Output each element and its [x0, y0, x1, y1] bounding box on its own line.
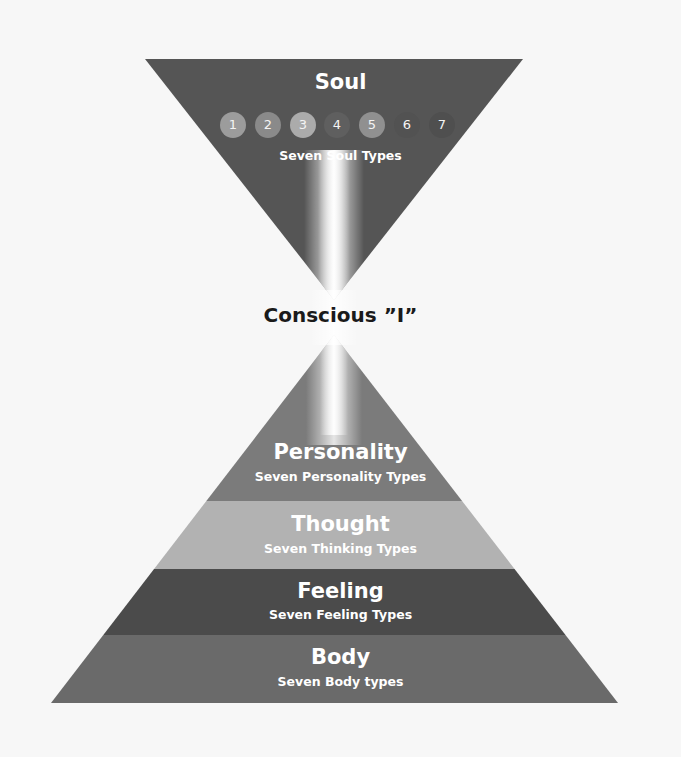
feeling-subtitle: Seven Feeling Types [0, 607, 681, 622]
thought-title: Thought [0, 512, 681, 536]
soul-type-label: 3 [299, 117, 307, 132]
soul-subtitle: Seven Soul Types [0, 148, 681, 163]
soul-type-4: 4 [324, 112, 350, 138]
hourglass-diagram: Soul 1 2 3 4 5 6 7 Seven Soul Types Cons… [0, 0, 681, 757]
soul-type-label: 6 [403, 117, 411, 132]
soul-type-3: 3 [290, 112, 316, 138]
feeling-title: Feeling [0, 579, 681, 603]
conscious-i-label: Conscious ”I” [0, 303, 681, 327]
soul-type-2: 2 [255, 112, 281, 138]
soul-type-label: 5 [368, 117, 376, 132]
soul-type-label: 1 [229, 117, 237, 132]
body-subtitle: Seven Body types [0, 674, 681, 689]
soul-type-7: 7 [429, 112, 455, 138]
soul-types-row: 1 2 3 4 5 6 7 [0, 112, 681, 140]
soul-type-6: 6 [394, 112, 420, 138]
soul-type-label: 7 [438, 117, 446, 132]
thought-subtitle: Seven Thinking Types [0, 541, 681, 556]
soul-title: Soul [0, 70, 681, 94]
soul-type-label: 2 [264, 117, 272, 132]
soul-type-label: 4 [333, 117, 341, 132]
soul-type-5: 5 [359, 112, 385, 138]
body-title: Body [0, 645, 681, 669]
soul-type-1: 1 [220, 112, 246, 138]
personality-title: Personality [0, 440, 681, 464]
personality-subtitle: Seven Personality Types [0, 469, 681, 484]
